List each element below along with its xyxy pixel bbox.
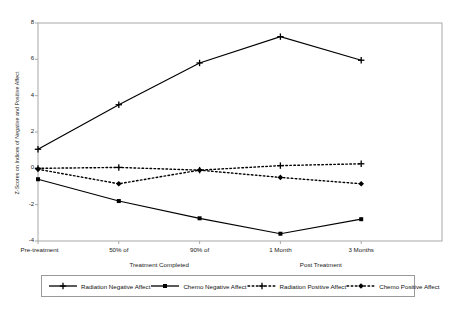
data-point-marker xyxy=(198,216,202,220)
legend-label: Radiation Positive Affect xyxy=(280,283,347,290)
legend-key-icon xyxy=(48,281,78,291)
data-point-marker xyxy=(36,177,40,181)
chart-legend: Radiation Negative AffectChemo Negative … xyxy=(41,275,415,297)
legend-key-icon xyxy=(247,281,277,291)
series-line xyxy=(38,37,361,150)
data-point-marker xyxy=(278,232,282,236)
legend-label: Chemo Positive Affect xyxy=(379,283,439,290)
data-point-marker xyxy=(197,167,203,173)
data-point-marker xyxy=(358,283,364,289)
data-point-marker xyxy=(278,175,284,181)
data-point-marker xyxy=(359,217,363,221)
data-point-marker xyxy=(358,181,364,187)
x-tick-label: Pre-treatment xyxy=(21,246,59,253)
series-1 xyxy=(35,33,365,152)
x-tick-label: 1 Month xyxy=(269,246,291,253)
legend-item-1[interactable]: Radiation Negative Affect xyxy=(48,281,150,291)
data-point-marker xyxy=(117,199,121,203)
data-point-marker xyxy=(163,284,167,288)
legend-item-2[interactable]: Chemo Negative Affect xyxy=(150,281,246,291)
plot-area xyxy=(0,0,456,311)
x-group-label: Treatment Completed xyxy=(129,261,189,268)
chart-figure: Z-Scores on Indices of Negative and Posi… xyxy=(0,0,456,311)
x-tick-label: 3 Months xyxy=(348,246,373,253)
series-4 xyxy=(35,166,364,186)
x-tick-label: 90% of xyxy=(190,246,209,253)
legend-label: Radiation Negative Affect xyxy=(81,283,150,290)
data-point-marker xyxy=(35,166,41,172)
series-2 xyxy=(36,177,363,236)
legend-label: Chemo Negative Affect xyxy=(183,283,246,290)
legend-item-3[interactable]: Radiation Positive Affect xyxy=(247,281,347,291)
legend-key-icon xyxy=(346,281,376,291)
plot-frame xyxy=(38,23,442,241)
x-group-label: Post Treatment xyxy=(300,261,342,268)
legend-item-4[interactable]: Chemo Positive Affect xyxy=(346,281,439,291)
legend-key-icon xyxy=(150,281,180,291)
series-line xyxy=(38,179,361,234)
data-point-marker xyxy=(116,181,122,187)
legend-row: Radiation Negative AffectChemo Negative … xyxy=(42,276,414,296)
x-tick-label: 50% of xyxy=(109,246,128,253)
